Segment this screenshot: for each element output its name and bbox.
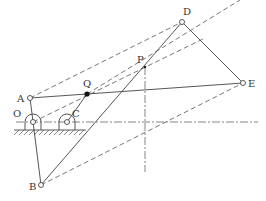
joint-e — [241, 81, 246, 86]
link-a-e — [30, 83, 243, 98]
label-q: Q — [83, 78, 91, 89]
dashed-line-o-p — [33, 38, 205, 122]
label-o: O — [13, 108, 21, 119]
label-c: C — [72, 108, 80, 119]
label-a: A — [16, 93, 25, 104]
joint-d — [180, 20, 185, 25]
joint-o — [31, 120, 36, 125]
ground-hatch — [14, 130, 86, 135]
label-p: P — [137, 54, 144, 65]
link-b-d — [41, 22, 182, 185]
joint-b — [39, 183, 44, 188]
dashed-line-b-e — [41, 83, 243, 185]
joint-c — [65, 120, 70, 125]
joint-p — [144, 66, 147, 69]
link-a-b — [30, 98, 41, 185]
dashed-line-q-e — [87, 0, 240, 94]
joint-a — [28, 96, 33, 101]
label-b: B — [29, 181, 36, 192]
link-d-e — [182, 22, 243, 83]
label-d: D — [183, 6, 191, 17]
joint-q — [84, 91, 89, 96]
label-e: E — [248, 78, 255, 89]
linkage-diagram: A O C Q P D E B — [0, 0, 266, 201]
